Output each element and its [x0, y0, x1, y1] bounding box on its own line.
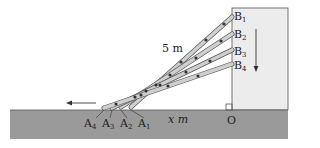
label-a4: A4 [84, 118, 96, 131]
left-arrow-icon [66, 101, 96, 106]
label-b2: B2 [234, 29, 247, 42]
label-a1: A1 [138, 118, 150, 131]
label-b3: B3 [234, 46, 247, 59]
label-b1: B1 [234, 11, 247, 24]
label-a2: A2 [120, 118, 132, 131]
label-length: 5 m [162, 43, 183, 54]
label-b4: B4 [234, 60, 247, 73]
right-angle-mark [226, 104, 232, 110]
label-distance: x m [168, 114, 188, 125]
label-origin: O [227, 115, 236, 126]
label-a3: A3 [102, 118, 114, 131]
